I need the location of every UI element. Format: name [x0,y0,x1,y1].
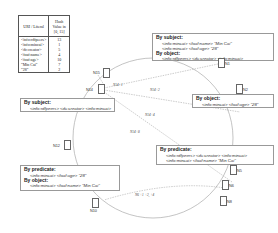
node-n1 [218,58,225,68]
edge-label-n14-4: N14+4 [145,113,155,117]
table-row: "28"2 [19,67,70,73]
node-label-n2: N2 [243,88,248,92]
col-header-uri: URI / Literal [19,16,49,37]
hash-table: URI / Literal Hash Value in [0, 15] <inf… [18,15,70,73]
node-label-n12: N12 [53,144,60,148]
col-header-hash: Hash Value in [0, 15] [49,16,70,37]
node-label-n15: N15 [93,71,100,75]
node-label-n1: N1 [225,62,230,66]
node-n12 [64,140,71,150]
node-n14 [98,84,105,94]
edge-label-n14-8: N14+8 [130,130,140,134]
node-n5 [230,165,237,175]
box-n2: By object: <info:mincai> <foaf:age> "28" [192,94,274,108]
node-label-n14: N14 [86,88,93,92]
node-n6 [222,180,229,190]
box-n5: By predicate: <info:rdfpeers> <dc:creato… [156,145,274,165]
node-n10 [92,198,99,208]
node-n15 [103,68,110,78]
box-n1: By subject: <info:mincai> <foaf:name> "M… [152,33,274,61]
edge-label-n14-2: N14+2 [150,88,160,92]
box-n14: By subject: <info:rdfpeers> <dc:creator>… [20,98,115,112]
edge-label-n14-1: N14+1 [113,83,123,87]
node-label-n8: N8 [227,200,232,204]
node-n8 [220,196,227,206]
node-label-n10: N10 [90,209,97,213]
edge-label-n6: N6 +1 +2, +4 [135,193,154,197]
node-n2 [236,84,243,94]
box-n10: By predicate: <info:mincai> <foaf:age> "… [20,165,120,191]
node-label-n5: N5 [237,169,242,173]
node-label-n6: N6 [229,184,234,188]
